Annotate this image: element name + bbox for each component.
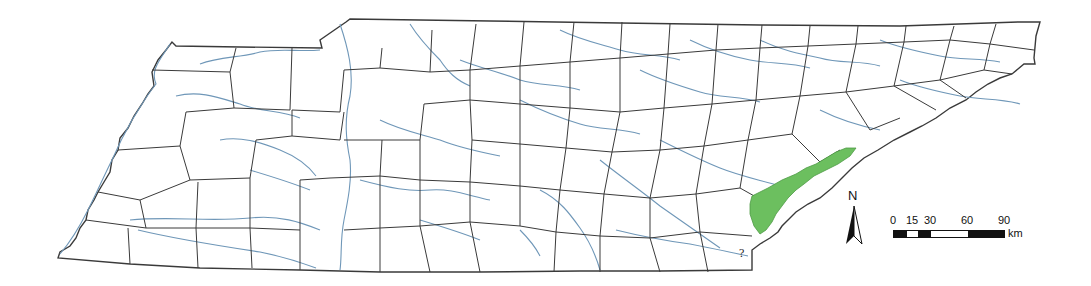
scale-bar: [893, 230, 1005, 238]
north-arrow-icon: [843, 192, 865, 252]
rivers: [60, 24, 1020, 270]
highlighted-region: [750, 148, 856, 234]
scale-segment: [931, 231, 968, 237]
scale-unit: km: [1008, 227, 1023, 239]
scale-segment: [907, 231, 918, 237]
scale-tick-15: 15: [906, 214, 918, 226]
scale-segment: [918, 231, 931, 237]
unknown-marker: ?: [739, 246, 744, 261]
scale-tick-0: 0: [890, 214, 896, 226]
county-borders: [86, 22, 1034, 272]
tennessee-county-map: [0, 0, 1091, 286]
scale-tick-60: 60: [961, 214, 973, 226]
scale-tick-90: 90: [998, 214, 1010, 226]
scale-segment: [894, 231, 907, 237]
scale-segment: [968, 231, 1004, 237]
scale-tick-30: 30: [924, 214, 936, 226]
scale-bar-ticks: 0 15 30 60 90: [893, 214, 1023, 228]
